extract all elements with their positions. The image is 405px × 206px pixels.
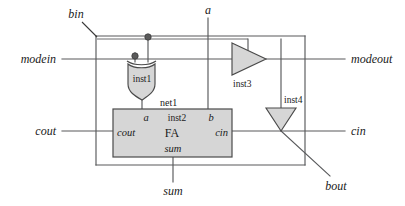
port-label-a[interactable]: a [205, 3, 211, 17]
fa-port-sum-label: sum [165, 143, 182, 154]
junction-dot-bin [145, 34, 151, 40]
port-label-modeout[interactable]: modeout [351, 52, 393, 66]
fa-port-a-label: a [143, 112, 148, 123]
buffer-inst3[interactable]: inst3 [232, 43, 266, 89]
buffer-inst4-body [266, 108, 296, 131]
xor-gate-inst1[interactable]: inst1 [127, 61, 156, 100]
fa-type-label: FA [165, 126, 180, 140]
schematic-diagram: a inst2 b cout FA cin sum inst1 inst3 in… [0, 0, 405, 206]
fa-port-cin-label: cin [215, 127, 228, 138]
xor-input-arc [127, 61, 156, 65]
port-label-cin[interactable]: cin [351, 124, 366, 138]
buffer-inst4[interactable]: inst4 [266, 95, 303, 131]
fa-port-b-label: b [208, 112, 213, 123]
buffer-inst4-label: inst4 [284, 95, 303, 105]
fa-instance-label: inst2 [168, 113, 187, 123]
fa-port-cout-label: cout [117, 127, 136, 138]
bin-leader-line [82, 22, 97, 37]
xor-instance-label: inst1 [133, 74, 152, 84]
port-label-bout[interactable]: bout [325, 179, 347, 193]
schematic-canvas: a inst2 b cout FA cin sum inst1 inst3 in… [0, 0, 405, 206]
buffer-inst3-label: inst3 [233, 79, 252, 89]
port-label-modein[interactable]: modein [21, 52, 56, 66]
port-label-bin[interactable]: bin [68, 7, 83, 21]
net1-label: net1 [160, 97, 177, 108]
port-label-sum[interactable]: sum [163, 184, 183, 198]
fa-block[interactable]: a inst2 b cout FA cin sum [113, 109, 232, 157]
port-label-cout[interactable]: cout [35, 124, 56, 138]
junction-dot-modein [132, 53, 138, 59]
buffer-inst3-body [232, 43, 266, 75]
